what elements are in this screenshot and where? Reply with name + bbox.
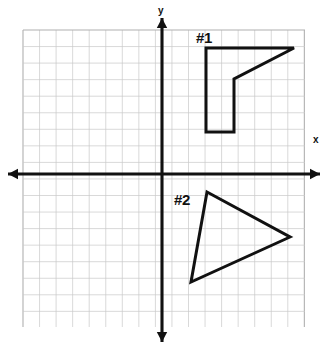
coordinate-plane-svg: xy#1#2 — [0, 0, 328, 348]
y-axis-label: y — [158, 5, 164, 16]
axes-layer — [8, 18, 320, 342]
figure-shape-2 — [191, 192, 290, 282]
grid-layer — [23, 30, 305, 327]
x-axis-arrow-left — [8, 169, 18, 179]
figures-layer — [191, 48, 294, 282]
coordinate-plane-figure: xy#1#2 — [0, 0, 328, 348]
figure-1-label: #1 — [196, 29, 212, 46]
x-axis-arrow-right — [310, 169, 320, 179]
x-axis-label: x — [313, 134, 319, 145]
labels-layer: xy#1#2 — [158, 5, 319, 208]
figure-2-label: #2 — [174, 191, 190, 208]
figure-shape-1 — [206, 48, 294, 132]
y-axis-arrow-up — [157, 18, 167, 28]
y-axis-arrow-down — [157, 332, 167, 342]
